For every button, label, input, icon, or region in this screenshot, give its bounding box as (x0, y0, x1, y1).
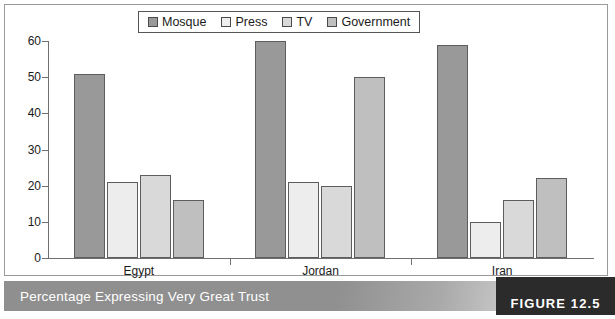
legend-item-label: TV (296, 15, 312, 29)
bars-layer (48, 41, 593, 258)
bar-iran-mosque (437, 45, 468, 258)
legend-item-press: Press (221, 15, 267, 29)
x-axis-group-separator (411, 258, 412, 265)
y-axis-tick-mark (42, 258, 48, 259)
legend-item-tv: TV (282, 15, 312, 29)
bar-jordan-tv (321, 186, 352, 258)
y-axis-tick-label: 60 (28, 34, 41, 48)
legend-swatch-icon (327, 17, 337, 27)
bar-group-jordan (230, 41, 412, 258)
bar-iran-government (536, 178, 567, 258)
legend-swatch-icon (282, 17, 292, 27)
chart-legend: MosquePressTVGovernment (138, 11, 420, 33)
figure-number-label: FIGURE 12.5 (510, 296, 600, 311)
legend-swatch-icon (148, 17, 158, 27)
y-axis-tick-label: 20 (28, 179, 41, 193)
bar-group-egypt (48, 41, 230, 258)
figure-number-badge: FIGURE 12.5 (496, 277, 615, 315)
x-axis-category-label: Jordan (302, 264, 339, 278)
plot-area: 0102030405060 (48, 41, 593, 258)
bar-egypt-mosque (74, 74, 105, 258)
x-axis-line (48, 258, 594, 259)
bar-iran-tv (503, 200, 534, 258)
x-axis-group-separator (230, 258, 231, 265)
bar-jordan-mosque (255, 41, 286, 258)
y-axis-tick-label: 50 (28, 70, 41, 84)
figure-container: MosquePressTVGovernment 0102030405060 Eg… (0, 0, 615, 319)
y-axis-tick-label: 30 (28, 143, 41, 157)
x-axis-category-label: Iran (492, 264, 513, 278)
y-axis-tick-label: 0 (34, 251, 41, 265)
y-axis-tick-label: 10 (28, 215, 41, 229)
legend-item-government: Government (327, 15, 410, 29)
bar-jordan-press (288, 182, 319, 258)
legend-item-label: Mosque (162, 15, 206, 29)
x-axis-category-label: Egypt (123, 264, 154, 278)
legend-swatch-icon (221, 17, 231, 27)
bar-egypt-tv (140, 175, 171, 258)
bar-egypt-government (173, 200, 204, 258)
bar-egypt-press (107, 182, 138, 258)
legend-item-label: Government (341, 15, 410, 29)
bar-jordan-government (354, 77, 385, 258)
legend-item-mosque: Mosque (148, 15, 206, 29)
bar-group-iran (411, 41, 593, 258)
bar-iran-press (470, 222, 501, 258)
caption-title: Percentage Expressing Very Great Trust (20, 289, 269, 304)
legend-item-label: Press (235, 15, 267, 29)
y-axis-tick-label: 40 (28, 106, 41, 120)
